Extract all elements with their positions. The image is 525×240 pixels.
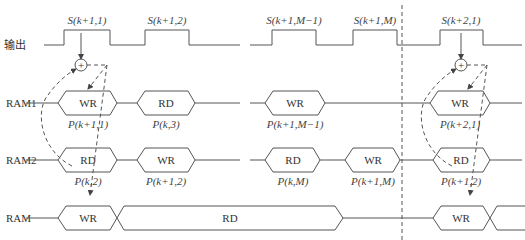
ram2-sub: P(k+1,2) (145, 175, 186, 188)
ram1-op: RD (158, 97, 173, 109)
ram2-op: RD (453, 154, 468, 166)
adder-group-left: + (41, 33, 107, 195)
ram-row: WR RD WR (26, 206, 525, 230)
ram1-sub: P(k+1,M−1) (266, 118, 324, 131)
ram2-row: RD WR RD WR RD P(k,2) P(k+1,2) P(k,M) P(… (26, 148, 522, 188)
dashed-arrow (88, 65, 107, 89)
ram2-op: RD (80, 154, 95, 166)
ram-bus-top (433, 206, 525, 230)
ram2-sub: P(k+1,2) (440, 175, 481, 188)
ram2-sub: P(k,M) (277, 175, 309, 188)
dashed-arrow (468, 65, 487, 89)
pulse-label: S(k+1,M) (354, 14, 397, 27)
ram-bus-bottom (58, 206, 343, 230)
ram1-op: WR (451, 97, 469, 109)
output-signal-right (250, 30, 522, 45)
adder-symbol: + (78, 59, 84, 71)
pulse-label: S(k+2,1) (442, 14, 481, 27)
pulse-label: S(k+1,2) (148, 14, 187, 27)
ram1-op: WR (286, 97, 304, 109)
adder-symbol: + (458, 59, 464, 71)
ram2-op: WR (364, 154, 382, 166)
ram2-op: WR (157, 154, 175, 166)
ram1-row: WR RD WR WR P(k+1,1) P(k,3) P(k+1,M−1) P… (26, 91, 522, 131)
ram2-sub: P(k+1,M) (350, 175, 395, 188)
output-signal-left (44, 30, 240, 45)
row-label-output: 输出 (4, 38, 26, 52)
output-waveform (44, 30, 522, 45)
pulse-label: S(k+1,1) (68, 14, 107, 27)
ram2-sub: P(k,2) (73, 175, 102, 188)
ram-op: WR (452, 212, 470, 224)
timing-diagram: 输出 RAM1 RAM2 RAM S(k+1,1) S(k+1,2) S(k+1… (0, 0, 525, 240)
ram1-sub: P(k+2,1) (439, 118, 480, 131)
adder-group-right: + (421, 33, 487, 195)
ram-op: RD (222, 212, 237, 224)
pulse-label: S(k+1,M−1) (266, 14, 322, 27)
ram1-sub: P(k,3) (151, 118, 180, 131)
ram-bus-top (58, 206, 343, 230)
ram-op: WR (79, 212, 97, 224)
ram-bus-bottom (433, 206, 525, 230)
ram2-op: RD (285, 154, 300, 166)
ram1-sub: P(k+1,1) (67, 118, 108, 131)
ram1-op: WR (79, 97, 97, 109)
